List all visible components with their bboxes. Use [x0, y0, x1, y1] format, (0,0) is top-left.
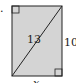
diagonal-label: 13	[27, 34, 41, 45]
right-side-label: 10	[64, 37, 76, 48]
bottom-side-label: x	[33, 78, 39, 83]
problem-marker: .	[0, 3, 4, 14]
